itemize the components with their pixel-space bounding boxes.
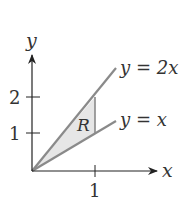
- y-tick-label-1: 1: [9, 123, 20, 144]
- upper-line-label: y = 2x: [119, 57, 178, 78]
- lower-line-label: y = x: [119, 109, 167, 130]
- region-label: R: [76, 115, 90, 135]
- x-axis-label: x: [162, 159, 173, 181]
- upper-line-y-equals-2x: [32, 68, 116, 171]
- x-tick-label-1: 1: [89, 180, 100, 201]
- region-diagram: y x 2 1 1 y = 2x y = x R: [0, 0, 196, 201]
- y-axis-label: y: [25, 29, 37, 51]
- y-tick-label-2: 2: [9, 87, 20, 108]
